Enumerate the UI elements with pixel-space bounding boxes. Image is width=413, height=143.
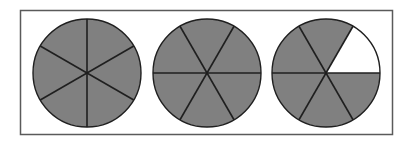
figure-canvas bbox=[0, 0, 413, 143]
circle-1 bbox=[33, 19, 141, 127]
circles-group bbox=[33, 19, 380, 127]
circle-2 bbox=[153, 19, 261, 127]
circle-3 bbox=[272, 19, 380, 127]
fraction-circles-figure bbox=[0, 0, 413, 143]
